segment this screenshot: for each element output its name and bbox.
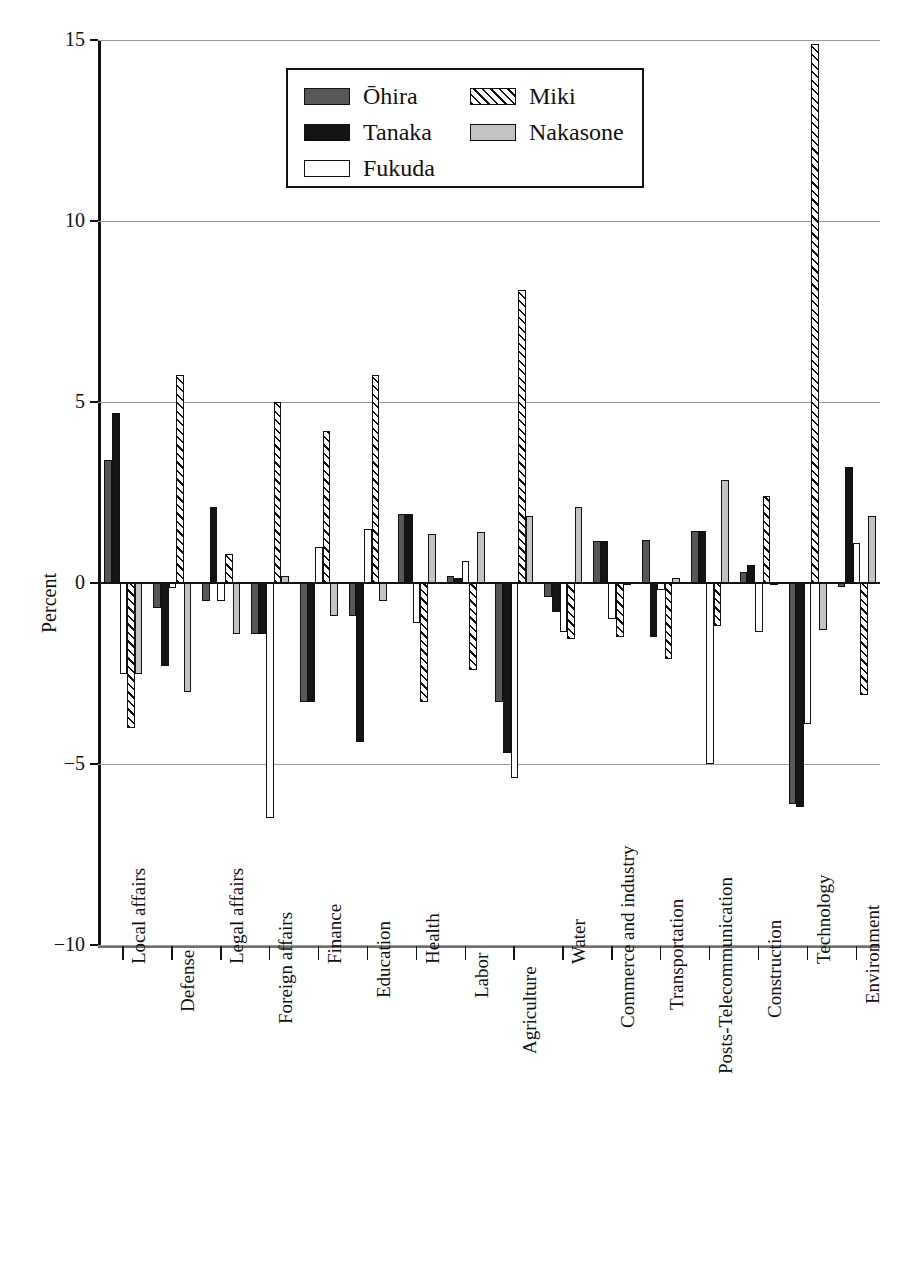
legend-swatch-icon xyxy=(304,88,350,105)
y-tick-label: 15 xyxy=(65,29,85,49)
bar-group xyxy=(98,40,147,945)
legend-label: Nakasone xyxy=(529,120,624,144)
x-axis-label: Local affairs xyxy=(129,868,148,964)
bar xyxy=(315,547,323,583)
bar xyxy=(860,583,868,695)
bar xyxy=(469,583,477,670)
bar xyxy=(202,583,210,601)
x-axis-label: Agriculture xyxy=(520,966,539,1054)
bar xyxy=(135,583,143,674)
bar xyxy=(616,583,624,637)
bar xyxy=(740,572,748,583)
bar-group xyxy=(196,40,245,945)
bar xyxy=(567,583,575,639)
x-tick-mark xyxy=(416,946,417,960)
bar xyxy=(575,507,583,583)
x-axis-label: Commerce and industry xyxy=(618,845,637,1028)
bar xyxy=(372,375,380,583)
bar xyxy=(217,583,225,601)
bar xyxy=(747,565,755,583)
bar xyxy=(428,534,436,583)
x-tick-mark xyxy=(122,946,123,960)
x-axis-label: Education xyxy=(374,921,393,998)
bar xyxy=(127,583,135,728)
bar xyxy=(413,583,421,623)
bar xyxy=(593,541,601,583)
bar xyxy=(650,583,658,637)
chart-legend: ŌhiraTanakaFukuda MikiNakasone xyxy=(286,68,644,188)
x-tick-mark xyxy=(367,946,368,960)
bar xyxy=(706,583,714,764)
x-tick-mark xyxy=(709,946,710,960)
x-axis-label: Water xyxy=(569,919,588,964)
legend-item[interactable]: Tanaka xyxy=(304,116,435,148)
bar xyxy=(281,576,289,583)
x-axis-label: Legal affairs xyxy=(227,868,246,964)
bar xyxy=(770,583,778,585)
bar xyxy=(552,583,560,612)
bar xyxy=(811,44,819,583)
y-tick-mark xyxy=(90,39,98,41)
bar xyxy=(364,529,372,583)
bar xyxy=(657,583,665,590)
x-tick-mark xyxy=(220,946,221,960)
x-tick-mark xyxy=(513,946,514,960)
x-axis-label: Health xyxy=(423,913,442,964)
x-tick-mark xyxy=(758,946,759,960)
bar-group xyxy=(147,40,196,945)
bar xyxy=(379,583,387,601)
legend-label: Miki xyxy=(529,84,576,108)
x-axis-label: Defense xyxy=(178,950,197,1012)
bar xyxy=(462,561,470,583)
x-axis-label: Transportation xyxy=(667,899,686,1010)
x-axis-labels: Local affairsDefenseLegal affairsForeign… xyxy=(98,948,880,1278)
legend-item[interactable]: Nakasone xyxy=(470,116,624,148)
bar-group xyxy=(685,40,734,945)
bar xyxy=(161,583,169,666)
bar xyxy=(454,578,462,583)
x-tick-mark xyxy=(318,946,319,960)
bar xyxy=(819,583,827,630)
bar xyxy=(853,543,861,583)
x-tick-mark xyxy=(562,946,563,960)
x-tick-mark xyxy=(171,946,172,960)
bar xyxy=(477,532,485,583)
bar xyxy=(349,583,357,616)
x-axis-label: Labor xyxy=(472,953,491,998)
bar xyxy=(169,583,177,588)
y-tick-mark xyxy=(90,401,98,403)
x-tick-mark xyxy=(611,946,612,960)
x-axis-label: Environment xyxy=(863,905,882,1004)
chart-figure: Percent 151050−5−10 Local affairsDefense… xyxy=(0,0,901,1278)
bar xyxy=(511,583,519,778)
bar xyxy=(838,583,846,587)
bar xyxy=(176,375,184,583)
y-tick-label: −10 xyxy=(54,934,85,954)
bar xyxy=(665,583,673,659)
x-tick-mark xyxy=(269,946,270,960)
x-axis-label: Posts-Telecommunication xyxy=(716,877,735,1074)
bar-group xyxy=(733,40,782,945)
legend-item[interactable]: Ōhira xyxy=(304,80,435,112)
bar xyxy=(714,583,722,626)
bar xyxy=(503,583,511,753)
legend-item[interactable]: Fukuda xyxy=(304,152,435,184)
legend-item[interactable]: Miki xyxy=(470,80,624,112)
x-axis-label: Finance xyxy=(325,904,344,964)
bar xyxy=(624,583,632,585)
bar xyxy=(398,514,406,583)
x-tick-mark xyxy=(660,946,661,960)
bar xyxy=(721,480,729,583)
bar xyxy=(789,583,797,804)
x-tick-mark xyxy=(807,946,808,960)
bar xyxy=(356,583,364,742)
bar xyxy=(300,583,308,702)
bar xyxy=(796,583,804,807)
bar xyxy=(601,541,609,583)
bar xyxy=(210,507,218,583)
bar xyxy=(420,583,428,702)
y-axis-title: Percent xyxy=(38,573,61,633)
bar xyxy=(691,531,699,583)
x-axis-label: Technology xyxy=(814,875,833,964)
bar xyxy=(330,583,338,616)
